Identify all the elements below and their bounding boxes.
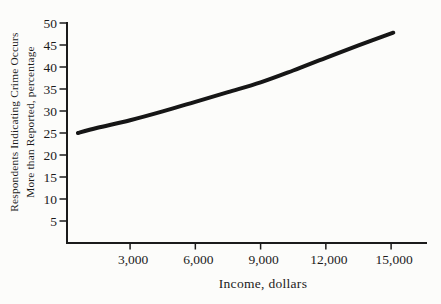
y-tick-label: 50 <box>44 16 58 31</box>
y-tick-label: 10 <box>44 192 58 207</box>
data-curve <box>78 33 393 133</box>
x-tick-label: 6,000 <box>183 252 214 267</box>
crime-underreporting-chart: 51015202530354045503,0006,0009,00012,000… <box>0 0 441 304</box>
y-tick-label: 30 <box>44 104 58 119</box>
y-tick-label: 25 <box>44 126 58 141</box>
x-axis-title: Income, dollars <box>130 276 396 292</box>
y-tick-label: 35 <box>44 82 58 97</box>
y-axis-title-line1: Respondents Indicating Crime Occurs <box>7 32 23 211</box>
y-axis-title: Respondents Indicating Crime Occurs More… <box>7 32 38 211</box>
x-tick-label: 3,000 <box>118 252 149 267</box>
x-tick-label: 12,000 <box>310 252 347 267</box>
x-tick-label: 9,000 <box>248 252 279 267</box>
y-tick-label: 45 <box>44 38 58 53</box>
y-tick-label: 20 <box>44 148 58 163</box>
y-tick-label: 15 <box>44 170 58 185</box>
plot-area: 51015202530354045503,0006,0009,00012,000… <box>0 0 441 304</box>
y-axis-title-line2: More than Reported, percentage <box>22 46 38 198</box>
y-tick-label: 5 <box>50 214 57 229</box>
y-tick-label: 40 <box>44 60 58 75</box>
x-tick-label: 15,000 <box>376 252 413 267</box>
